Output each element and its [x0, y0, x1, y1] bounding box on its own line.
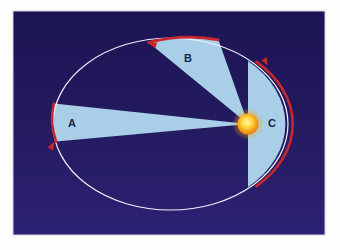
sector-label-a: A: [68, 117, 76, 129]
orbit-diagram: A B C: [0, 0, 340, 250]
sector-label-c: C: [268, 117, 276, 129]
figure-root: A B C: [0, 0, 340, 250]
sector-label-b: B: [184, 52, 192, 64]
sun-icon: [238, 114, 259, 135]
